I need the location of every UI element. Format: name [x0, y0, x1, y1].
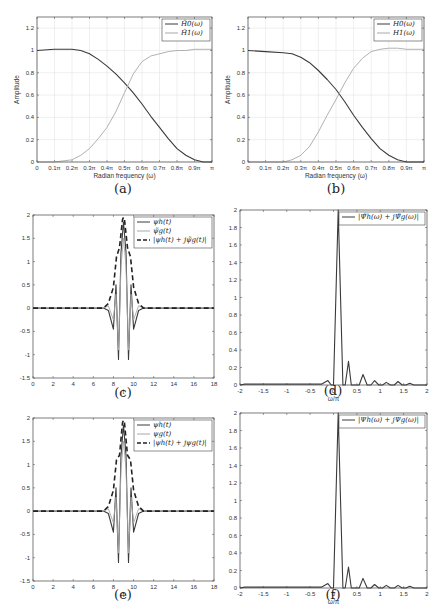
x-axis-label: Radian frequency (ω): [93, 172, 155, 180]
y-tick-label: 2: [234, 207, 238, 213]
x-tick-label: 6: [92, 381, 96, 387]
x-tick-label: 12: [150, 584, 157, 590]
y-tick-label: 0.2: [229, 568, 238, 574]
caption-e: (e): [103, 587, 143, 602]
x-tick-label: -1: [284, 591, 290, 597]
legend-entry: |ψh(t) + jψ̃g(t)|: [153, 236, 207, 244]
y-tick-label: 0.6: [237, 92, 246, 98]
chart-e-plot: 024681012141618-1.5-1-0.500.511.52tψh(t)…: [20, 415, 218, 598]
legend-entry: H̃1(ω): [180, 28, 203, 37]
x-tick-label: 0: [35, 165, 39, 171]
y-tick-label: 0: [31, 159, 35, 165]
x-tick-label: 6: [92, 584, 96, 590]
x-tick-label: 0.3π: [295, 165, 307, 171]
x-tick-label: 0.9π: [188, 165, 200, 171]
x-tick-label: 0.6π: [347, 165, 359, 171]
chart-f-svg: -2-1.5-1-0.500.511.5200.20.40.60.811.21.…: [222, 405, 444, 613]
chart-panel-c: 024681012141618-1.5-1-0.500.511.52tψh(t)…: [0, 200, 222, 410]
x-tick-label: 0: [31, 381, 35, 387]
legend: ψh(t)ψ̃g(t)|ψh(t) + jψ̃g(t)|: [134, 217, 212, 248]
caption-d: (d): [313, 383, 353, 398]
x-tick-label: 2: [51, 381, 55, 387]
y-axis-label: Amplitude: [224, 75, 232, 104]
y-tick-label: 1: [242, 47, 246, 53]
y-tick-label: 1: [234, 295, 238, 301]
x-tick-label: 0.5: [353, 388, 362, 394]
y-tick-label: 1: [27, 259, 31, 265]
x-tick-label: 1: [379, 388, 383, 394]
x-tick-label: 12: [150, 381, 157, 387]
legend-entry: |Ψ̃h(ω) + jΨ̃g(ω)|: [358, 213, 419, 221]
x-tick-label: -2: [237, 591, 243, 597]
series-line: [240, 413, 427, 588]
x-tick-label: 1.5: [399, 591, 408, 597]
x-tick-label: 0.5π: [330, 165, 342, 171]
axes-frame: [240, 210, 427, 385]
x-tick-label: 0.4π: [101, 165, 113, 171]
x-tick-label: 0.3π: [83, 165, 95, 171]
y-axis-label: Amplitude: [13, 75, 21, 104]
chart-panel-b: 00.1π0.2π0.3π0.4π0.5π0.6π0.7π0.8π0.9ππ00…: [222, 0, 444, 200]
y-tick-label: 0.4: [229, 550, 238, 556]
x-tick-label: 0.8π: [171, 165, 183, 171]
y-tick-label: 1: [27, 462, 31, 468]
legend-entry: |Ψh(ω) + jΨg(ω)|: [358, 416, 419, 424]
caption-a: (a): [103, 181, 143, 196]
axes-frame: [240, 413, 427, 588]
x-tick-label: 2: [425, 388, 429, 394]
x-tick-label: 16: [191, 381, 198, 387]
legend: H0(ω)H1(ω): [374, 19, 422, 41]
x-tick-label: 2: [425, 591, 429, 597]
x-tick-label: 1.5: [399, 388, 408, 394]
y-tick-label: 0.6: [229, 533, 238, 539]
chart-panel-d: -2-1.5-1-0.500.511.5200.20.40.60.811.21.…: [222, 200, 444, 410]
chart-c-svg: 024681012141618-1.5-1-0.500.511.52tψh(t)…: [0, 200, 222, 410]
x-tick-label: 0.1π: [48, 165, 60, 171]
y-tick-label: 0.4: [237, 114, 246, 120]
y-tick-label: -1: [25, 555, 31, 561]
y-tick-label: 1.5: [22, 235, 31, 241]
x-tick-label: 2: [51, 584, 55, 590]
y-tick-label: 0.6: [229, 330, 238, 336]
x-tick-label: 0.7π: [365, 165, 377, 171]
legend-entry: H̃0(ω): [180, 19, 203, 28]
y-tick-label: 1.4: [229, 463, 238, 469]
x-tick-label: 0.2π: [66, 165, 78, 171]
y-tick-label: 0.8: [229, 515, 238, 521]
chart-panel-f: -2-1.5-1-0.500.511.5200.20.40.60.811.21.…: [222, 405, 444, 613]
legend: |Ψh(ω) + jΨg(ω)|: [339, 415, 425, 428]
y-tick-label: 0.8: [229, 312, 238, 318]
x-tick-label: -2: [237, 388, 243, 394]
legend: |Ψ̃h(ω) + jΨ̃g(ω)|: [339, 212, 425, 225]
legend: ψh(t)ψg(t)|ψh(t) + jψg(t)|: [134, 420, 212, 451]
x-tick-label: 4: [72, 381, 76, 387]
chart-d-plot: -2-1.5-1-0.500.511.5200.20.40.60.811.21.…: [229, 207, 430, 402]
x-tick-label: 0.2π: [277, 165, 289, 171]
legend-entry: |ψh(t) + jψg(t)|: [153, 439, 207, 447]
x-tick-label: 0.4π: [312, 165, 324, 171]
chart-panel-a: 00.1π0.2π0.3π0.4π0.5π0.6π0.7π0.8π0.9ππ00…: [0, 0, 222, 200]
x-tick-label: 0: [31, 584, 35, 590]
x-tick-label: -1.5: [258, 591, 269, 597]
x-tick-label: 0.9π: [400, 165, 412, 171]
x-tick-label: 4: [72, 584, 76, 590]
x-tick-label: 0.5: [353, 591, 362, 597]
x-tick-label: 18: [211, 584, 218, 590]
y-tick-label: 1.2: [229, 480, 238, 486]
legend-entry: ψh(t): [153, 218, 172, 226]
y-tick-label: 0.8: [26, 70, 35, 76]
x-tick-label: 0.6π: [136, 165, 148, 171]
y-tick-label: 1.6: [229, 445, 238, 451]
y-tick-label: -1: [25, 352, 31, 358]
y-tick-label: 1: [31, 47, 35, 53]
y-tick-label: 1.8: [229, 428, 238, 434]
chart-c-plot: 024681012141618-1.5-1-0.500.511.52tψh(t)…: [20, 212, 218, 395]
caption-b: (b): [316, 181, 356, 196]
legend-entry: H0(ω): [392, 20, 415, 28]
y-tick-label: 0.4: [229, 347, 238, 353]
y-tick-label: 2: [27, 212, 31, 218]
y-tick-label: 1.4: [229, 260, 238, 266]
x-tick-label: π: [422, 165, 426, 171]
legend-entry: ψ̃g(t): [153, 227, 172, 235]
x-tick-label: 14: [170, 381, 177, 387]
